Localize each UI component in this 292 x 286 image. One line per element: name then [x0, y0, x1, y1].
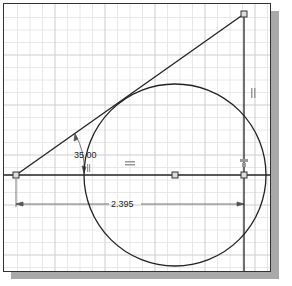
- sketch-canvas[interactable]: 2.395 35.00: [3, 3, 271, 272]
- sketch-svg[interactable]: 2.395 35.00: [4, 4, 271, 272]
- point-right[interactable]: [241, 172, 247, 178]
- coincident-constraint-icon[interactable]: [240, 159, 248, 167]
- linear-dimension-label[interactable]: 2.395: [111, 199, 134, 209]
- point-left[interactable]: [13, 172, 19, 178]
- grid: [4, 4, 271, 272]
- point-top[interactable]: [241, 11, 247, 17]
- point-center[interactable]: [172, 172, 178, 178]
